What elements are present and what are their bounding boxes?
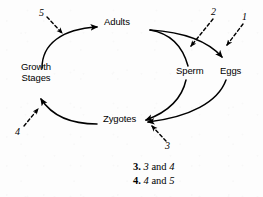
flow-zygotes-to-growth (41, 99, 97, 124)
pointer-4 (24, 109, 38, 126)
answer-option-4-key: 4. (133, 175, 141, 186)
node-label-growth-stages-line1: Growth (21, 61, 51, 72)
answer-option-4: 4. 4 and 5 (133, 174, 174, 188)
flow-eggs-to-zygotes (148, 80, 226, 122)
reference-number-1: 1 (242, 12, 247, 22)
pointer-1 (227, 24, 243, 45)
node-label-growth-stages-line2: Stages (22, 72, 51, 83)
answer-options-list: 3. 3 and 4 4. 4 and 5 (133, 160, 174, 187)
pointer-3 (152, 126, 166, 141)
flow-adults-to-eggs (150, 30, 222, 57)
node-label-adults: Adults (104, 17, 130, 28)
answer-option-3-second: 4 (169, 161, 174, 172)
answer-option-4-second: 5 (169, 175, 174, 186)
node-label-zygotes: Zygotes (103, 114, 136, 125)
life-cycle-diagram-svg (0, 0, 263, 197)
reference-number-5: 5 (39, 8, 44, 18)
reference-number-2: 2 (211, 7, 216, 17)
node-label-eggs: Eggs (220, 66, 241, 77)
flow-sperm-to-zygotes (146, 80, 186, 120)
node-label-sperm: Sperm (176, 66, 203, 77)
node-label-growth-stages: Growth Stages (12, 61, 60, 83)
answer-option-3-key: 3. (133, 161, 141, 172)
answer-option-3-conjunction: and (149, 161, 169, 172)
reference-number-3: 3 (165, 141, 170, 151)
life-cycle-figure: Adults Growth Stages Sperm Eggs Zygotes … (0, 0, 263, 197)
answer-option-3: 3. 3 and 4 (133, 160, 174, 174)
answer-option-4-conjunction: and (149, 175, 169, 186)
pointer-5 (47, 17, 62, 33)
reference-number-4: 4 (15, 127, 20, 137)
